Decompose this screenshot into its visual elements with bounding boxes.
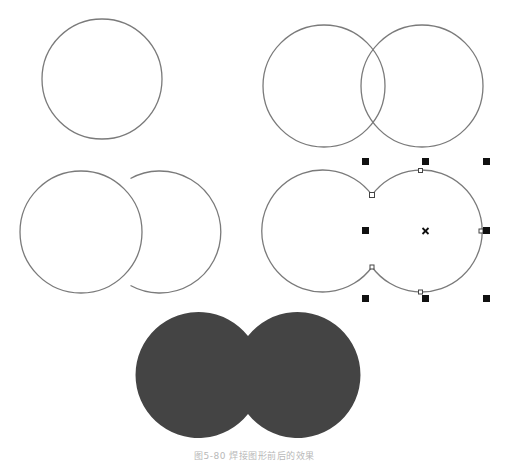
node-handle[interactable] <box>479 229 483 233</box>
circle-shape <box>42 19 162 139</box>
circle-left-front <box>20 171 142 293</box>
panel-stacked-circles <box>20 171 221 293</box>
resize-handle-bottom-center[interactable] <box>422 295 429 302</box>
circle-left <box>263 25 385 147</box>
resize-handle-middle-right[interactable] <box>483 227 490 234</box>
node-handle[interactable] <box>419 290 423 294</box>
welded-filled-shape <box>136 312 361 438</box>
resize-handle-middle-left[interactable] <box>362 227 369 234</box>
node-handle[interactable] <box>370 193 375 198</box>
node-handle[interactable] <box>370 265 374 269</box>
center-x-icon[interactable] <box>423 228 429 234</box>
circle-right <box>361 25 483 147</box>
resize-handle-bottom-left[interactable] <box>362 295 369 302</box>
welded-outline <box>262 170 482 292</box>
figure-caption: 图5-80 焊接图形前后的效果 <box>0 449 509 462</box>
resize-handle-top-center[interactable] <box>422 158 429 165</box>
panel-welded-filled <box>136 312 361 438</box>
circle-right-partial <box>131 171 221 293</box>
panel-welded-selected <box>262 158 490 302</box>
resize-handle-top-right[interactable] <box>483 158 490 165</box>
panel-single-circle <box>42 19 162 139</box>
weld-shapes-figure <box>0 0 509 462</box>
resize-handle-bottom-right[interactable] <box>483 295 490 302</box>
node-handle[interactable] <box>419 169 423 173</box>
panel-overlapping-circles <box>263 25 483 147</box>
resize-handle-top-left[interactable] <box>362 158 369 165</box>
